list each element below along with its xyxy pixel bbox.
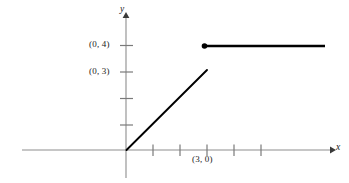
annotation-point-0-3: (0, 3): [89, 67, 110, 76]
y-axis-label: y: [120, 5, 124, 15]
annotation-point-0-4: (0, 4): [89, 40, 110, 49]
x-axis-label: x: [336, 143, 340, 153]
coordinate-plane: [0, 0, 349, 183]
graph-figure: y x (0, 4) (0, 3) (3, 0): [0, 0, 349, 183]
ramp-line-segment: [127, 70, 208, 150]
filled-endpoint-dot: [202, 43, 208, 49]
annotation-point-3-0: (3, 0): [192, 155, 213, 164]
